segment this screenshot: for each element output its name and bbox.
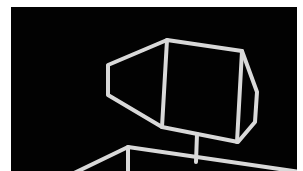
head-back-edge <box>237 51 242 142</box>
head-outline <box>108 40 257 142</box>
body-roof <box>70 147 297 171</box>
head-front-edge <box>162 40 167 127</box>
wireframe-drawing <box>11 7 297 171</box>
drawing-canvas <box>11 7 297 171</box>
